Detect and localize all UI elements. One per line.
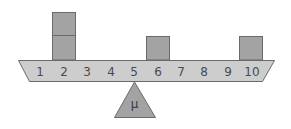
position-label-10: 10 [244,65,259,79]
diagram-svg: 1 2 3 4 5 6 7 8 9 10 μ [0,0,291,129]
position-label-6: 6 [154,65,162,79]
position-label-8: 8 [200,65,208,79]
weight-stack-position-10 [240,37,263,61]
position-label-4: 4 [107,65,115,79]
beam [19,61,275,82]
position-label-9: 9 [224,65,232,79]
position-label-1: 1 [36,65,44,79]
position-label-3: 3 [83,65,91,79]
position-label-7: 7 [177,65,185,79]
weight-box [147,37,170,61]
position-label-5: 5 [130,65,138,79]
weight-box [240,37,263,61]
balance-beam-diagram: 1 2 3 4 5 6 7 8 9 10 μ [0,0,291,129]
position-label-2: 2 [60,65,68,79]
weight-box [53,36,76,61]
weight-stack-position-6 [147,37,170,61]
fulcrum: μ [115,82,156,118]
weight-box [53,13,76,36]
weight-stack-position-2 [53,13,76,61]
fulcrum-label-mu: μ [131,97,139,111]
